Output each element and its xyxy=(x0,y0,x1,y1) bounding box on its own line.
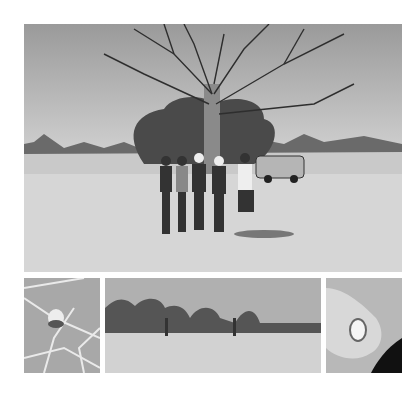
photo-grassland-landscape xyxy=(105,278,321,373)
photo-group-under-tree xyxy=(24,24,402,272)
photo-fruit-on-branch xyxy=(24,278,100,373)
photo-hand-holding-nut xyxy=(326,278,402,373)
